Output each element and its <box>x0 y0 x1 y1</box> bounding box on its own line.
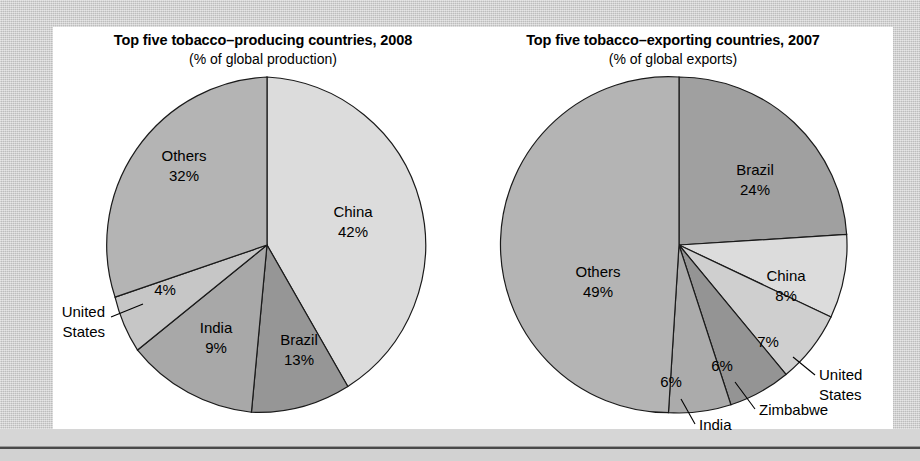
label-india-export-value: 6% <box>660 373 682 390</box>
label-us-value: 4% <box>154 281 176 298</box>
slice-others-export <box>500 77 679 413</box>
label-us-export-name-line1: United <box>819 366 862 383</box>
pie-svg-producing: China 42% Others 32% Brazil 13% India 9%… <box>53 27 473 429</box>
label-china-export-name: China <box>766 267 806 284</box>
figure-root: Top five tobacco–producing countries, 20… <box>0 0 920 461</box>
label-others-export-value: 49% <box>583 283 613 300</box>
label-us-name-line2: States <box>62 323 105 340</box>
label-china-export-value: 8% <box>775 287 797 304</box>
label-others-value: 32% <box>169 167 199 184</box>
bottom-gray-band <box>0 429 920 461</box>
white-chart-panel: Top five tobacco–producing countries, 20… <box>53 27 893 429</box>
label-others-export-name: Others <box>575 263 620 280</box>
pie-svg-exporting: Brazil 24% Others 49% China 8% 7% United… <box>463 27 883 429</box>
label-brazil-name: Brazil <box>280 331 318 348</box>
label-us-export-value: 7% <box>757 333 779 350</box>
label-china-value: 42% <box>338 223 368 240</box>
pie-chart-producing: Top five tobacco–producing countries, 20… <box>53 27 473 429</box>
label-us-name-line1: United <box>62 303 105 320</box>
label-india-export-name: India <box>699 416 732 433</box>
label-china-name: China <box>333 203 373 220</box>
label-india-value: 9% <box>205 339 227 356</box>
label-others-name: Others <box>161 147 206 164</box>
label-brazil-export-value: 24% <box>740 181 770 198</box>
label-brazil-value: 13% <box>284 351 314 368</box>
bottom-rule-line <box>0 447 920 449</box>
label-brazil-export-name: Brazil <box>736 161 774 178</box>
label-zimbabwe-export-value: 6% <box>711 357 733 374</box>
pie-chart-exporting: Top five tobacco–exporting countries, 20… <box>463 27 883 429</box>
label-zimbabwe-export-name: Zimbabwe <box>759 401 828 418</box>
label-india-name: India <box>200 319 233 336</box>
